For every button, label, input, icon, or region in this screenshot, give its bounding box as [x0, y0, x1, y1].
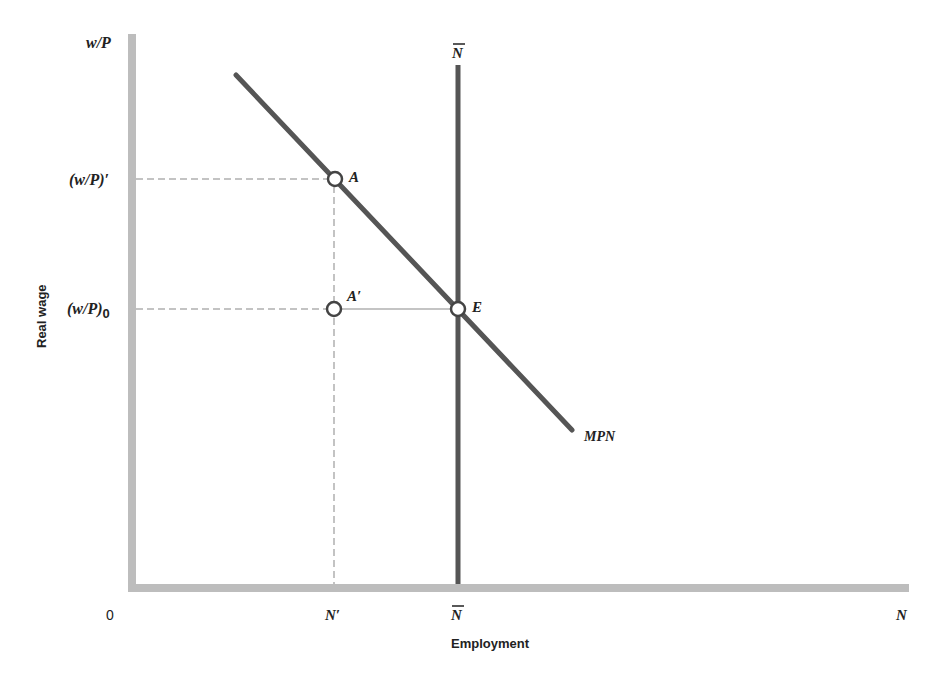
y-tick-wp-prime: (w/P)′	[69, 171, 109, 189]
label-mpn: MPN	[583, 429, 616, 444]
point-a	[328, 172, 342, 186]
labor-market-chart: A A′ E MPN N w/P (w/P)′ (w/P)0 Real wage…	[0, 0, 941, 690]
point-a-prime	[327, 302, 341, 316]
x-axis	[128, 584, 909, 592]
label-point-a-prime: A′	[346, 288, 361, 304]
x-tick-n-bar: N	[450, 607, 463, 623]
x-tick-n-bar-group: N	[450, 606, 464, 623]
y-tick-wp-zero: (w/P)0	[67, 300, 110, 321]
y-axis	[128, 34, 136, 592]
x-tick-n-prime: N′	[324, 607, 340, 623]
axes	[128, 34, 909, 592]
origin-label: 0	[106, 607, 114, 623]
y-axis-title: Real wage	[34, 284, 49, 348]
y-axis-top-label: w/P	[86, 34, 111, 51]
guide-lines	[136, 179, 450, 584]
mpn-curve	[236, 75, 572, 430]
y-tick-wp-zero-main: (w/P)	[67, 300, 103, 318]
x-axis-title: Employment	[451, 636, 530, 651]
n-bar-top-label-group: N	[451, 44, 465, 61]
label-point-e: E	[471, 299, 482, 315]
n-bar-top-label: N	[451, 45, 464, 61]
x-axis-end-label: N	[895, 607, 908, 623]
point-e	[451, 302, 465, 316]
y-tick-wp-zero-sub: 0	[103, 306, 110, 321]
label-point-a: A	[348, 169, 359, 185]
